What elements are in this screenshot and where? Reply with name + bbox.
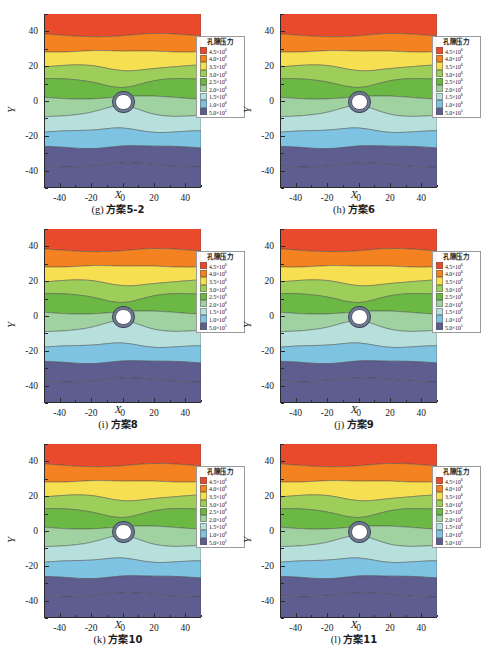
y-minor-tick (281, 548, 284, 549)
y-tick (281, 281, 285, 282)
colorbar-value-exponent: 6 (461, 530, 463, 535)
contour-panel-j: 40200-20-40-40-2002040孔隙压力4.5×1064.0×106… (236, 215, 472, 435)
x-minor-tick (343, 615, 344, 618)
y-tick (281, 31, 285, 32)
plot-wrap: 40200-20-40-40-2002040孔隙压力4.5×1064.0×106… (280, 14, 437, 188)
x-minor-tick (374, 615, 375, 618)
x-axis-spine (280, 402, 437, 403)
x-minor-tick (107, 185, 108, 188)
y-minor-tick (281, 188, 284, 189)
x-minor-tick (311, 400, 312, 403)
colorbar-swatch (200, 538, 207, 545)
y-minor-tick (45, 403, 48, 404)
colorbar-value-exponent: 6 (461, 300, 463, 305)
colorbar-value-exponent: 5 (225, 108, 227, 113)
x-tick (123, 183, 124, 187)
colorbar-value-exponent: 6 (225, 507, 227, 512)
y-tick-label: 0 (33, 311, 38, 321)
x-tick (359, 613, 360, 617)
y-axis-title: Y (5, 107, 17, 113)
y-tick-label: -20 (261, 346, 274, 356)
y-tick-label: 0 (33, 96, 38, 106)
colorbar-value-exponent: 6 (225, 92, 227, 97)
x-minor-tick (170, 185, 171, 188)
plot-area (280, 444, 437, 618)
colorbar-value-exponent: 6 (225, 47, 227, 52)
x-axis-spine (44, 402, 201, 403)
colorbar-swatch (200, 515, 207, 522)
x-axis-spine (280, 187, 437, 188)
colorbar-value-exponent: 6 (225, 85, 227, 90)
y-minor-tick (45, 618, 48, 619)
y-tick (45, 601, 49, 602)
colorbar-value-exponent: 6 (461, 62, 463, 67)
y-tick-label: 0 (269, 526, 274, 536)
y-minor-tick (281, 583, 284, 584)
contour-band-4_5e6 (280, 14, 437, 37)
x-minor-tick (138, 615, 139, 618)
panel-caption-name: 方案10 (108, 634, 142, 645)
y-tick-label: -40 (261, 596, 274, 606)
plot-wrap: 40200-20-40-40-2002040孔隙压力4.5×1064.0×106… (44, 14, 201, 188)
x-tick (91, 183, 92, 187)
y-minor-tick (45, 333, 48, 334)
y-axis-title: Y (241, 107, 253, 113)
colorbar-swatch (200, 285, 207, 292)
colorbar-value-mantissa: 5.0×10 (209, 540, 225, 546)
y-axis-title: Y (5, 322, 17, 328)
y-minor-tick (281, 14, 284, 15)
colorbar-value-exponent: 6 (461, 262, 463, 267)
y-minor-tick (281, 444, 284, 445)
y-minor-tick (45, 49, 48, 50)
x-minor-tick (201, 615, 202, 618)
y-minor-tick (45, 229, 48, 230)
plot-area (44, 229, 201, 403)
colorbar-swatch (200, 477, 207, 484)
y-tick-label: -40 (25, 596, 38, 606)
contour-panel-g: 40200-20-40-40-2002040孔隙压力4.5×1064.0×106… (0, 0, 236, 220)
colorbar-value-exponent: 6 (225, 515, 227, 520)
x-minor-tick (406, 185, 407, 188)
x-tick (296, 398, 297, 402)
y-tick-label: 40 (265, 26, 275, 36)
x-minor-tick (75, 400, 76, 403)
colorbar-swatch (200, 323, 207, 330)
panel-caption: (i) 方案8 (0, 416, 236, 431)
colorbar-value-exponent: 6 (461, 522, 463, 527)
colorbar-swatch (200, 78, 207, 85)
colorbar-swatch (436, 78, 443, 85)
colorbar-value-exponent: 6 (461, 54, 463, 59)
colorbar-value-exponent: 6 (461, 292, 463, 297)
x-axis-spine (280, 617, 437, 618)
tunnel-bore (351, 524, 367, 540)
y-tick (45, 386, 49, 387)
colorbar-swatch (200, 500, 207, 507)
y-tick (281, 461, 285, 462)
y-minor-tick (45, 583, 48, 584)
contour-band-0 (44, 464, 201, 483)
y-tick-label: 40 (29, 456, 39, 466)
x-minor-tick (107, 400, 108, 403)
x-axis-title: X (115, 403, 122, 415)
colorbar-value-exponent: 6 (461, 77, 463, 82)
colorbar-swatch (200, 277, 207, 284)
y-minor-tick (45, 153, 48, 154)
colorbar-swatch (200, 47, 207, 54)
colorbar-swatch (200, 93, 207, 100)
y-minor-tick (45, 84, 48, 85)
colorbar-swatch (200, 70, 207, 77)
colorbar-swatch (200, 308, 207, 315)
colorbar-legend: 孔隙压力4.5×1064.0×1063.5×1063.0×1062.5×1062… (432, 36, 481, 118)
contour-band-4_5e6 (44, 229, 201, 252)
y-tick (281, 351, 285, 352)
x-tick (390, 183, 391, 187)
y-minor-tick (281, 49, 284, 50)
plot-wrap: 40200-20-40-40-2002040孔隙压力4.5×1064.0×106… (44, 444, 201, 618)
x-tick (421, 398, 422, 402)
contour-panel-i: 40200-20-40-40-2002040孔隙压力4.5×1064.0×106… (0, 215, 236, 435)
colorbar-swatch (200, 262, 207, 269)
tunnel-bore (115, 94, 131, 110)
colorbar-value-label: 5.0×105 (209, 322, 227, 332)
x-minor-tick (280, 615, 281, 618)
x-tick (359, 398, 360, 402)
